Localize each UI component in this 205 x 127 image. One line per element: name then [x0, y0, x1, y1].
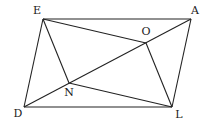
- label-o: O: [141, 25, 150, 38]
- label-l: L: [175, 108, 183, 121]
- vertex-labels: EADLON: [14, 4, 200, 121]
- segment-da: [24, 19, 191, 107]
- segment-eo: [43, 19, 146, 43]
- segment-nl: [69, 83, 172, 107]
- segment-de: [24, 19, 43, 107]
- label-a: A: [190, 4, 200, 17]
- label-d: D: [14, 107, 23, 120]
- geometry-diagram: EADLON: [0, 0, 205, 127]
- label-n: N: [64, 86, 74, 99]
- segment-ol: [146, 43, 172, 107]
- parallelogram-figure: EADLON: [0, 0, 205, 127]
- segment-en: [43, 19, 69, 83]
- segment-al: [172, 19, 191, 107]
- label-e: E: [33, 4, 41, 17]
- segments: [24, 19, 191, 107]
